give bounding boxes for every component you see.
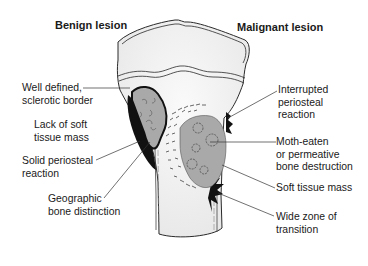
label-moth-eaten: Moth-eaten or permeative bone destructio… [276,136,353,174]
bone-lesion-diagram: Benign lesion Malignant lesion Well defi… [0,0,368,266]
label-wide-zone: Wide zone of transition [276,211,337,236]
label-geographic: Geographic bone distinction [48,193,120,218]
label-well-defined-border: Well defined, sclerotic border [22,82,93,107]
label-interrupted-periosteal: Interrupted periosteal reaction [278,84,328,122]
label-solid-periosteal: Solid periosteal reaction [22,155,93,180]
malignant-lesion-header: Malignant lesion [237,21,323,34]
label-lack-soft-tissue: Lack of soft tissue mass [34,119,89,144]
interrupted-periosteal-reaction [226,112,233,134]
benign-lesion-header: Benign lesion [55,19,127,32]
label-soft-tissue-mass: Soft tissue mass [276,182,352,195]
